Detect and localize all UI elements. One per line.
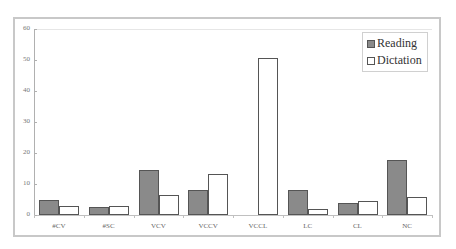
- bar-dictation: [358, 201, 378, 215]
- x-tick-label: LC: [283, 222, 333, 230]
- x-tick: [382, 215, 383, 218]
- bar-reading: [39, 200, 59, 216]
- y-tick-label: 40: [14, 86, 30, 94]
- y-tick-label: 60: [14, 24, 30, 32]
- x-tick-label: #SC: [84, 222, 134, 230]
- bar-reading: [139, 170, 159, 215]
- bar-reading: [288, 190, 308, 215]
- y-tick: [34, 60, 37, 61]
- y-tick-label: 10: [14, 179, 30, 187]
- dictation-swatch-icon: [367, 57, 375, 65]
- y-tick-label: 30: [14, 117, 30, 125]
- bar-dictation: [59, 206, 79, 215]
- reading-swatch-icon: [367, 40, 375, 48]
- x-tick-label: VCCL: [233, 222, 283, 230]
- y-tick: [34, 29, 37, 30]
- plot-top-border: [34, 29, 432, 30]
- y-tick: [34, 153, 37, 154]
- y-tick-label: 0: [14, 210, 30, 218]
- x-tick: [283, 215, 284, 218]
- x-tick: [183, 215, 184, 218]
- bar-reading: [387, 160, 407, 215]
- y-tick: [34, 122, 37, 123]
- bar-dictation: [308, 209, 328, 215]
- y-tick-label: 50: [14, 55, 30, 63]
- y-tick-label: 20: [14, 148, 30, 156]
- x-tick: [34, 215, 35, 218]
- x-tick-label: #CV: [34, 222, 84, 230]
- bar-dictation: [109, 206, 129, 215]
- x-tick: [432, 215, 433, 218]
- bar-dictation: [258, 58, 278, 215]
- bar-dictation: [159, 195, 179, 215]
- legend-label-reading: Reading: [377, 36, 417, 51]
- x-tick: [84, 215, 85, 218]
- legend-item-reading: Reading: [367, 36, 417, 51]
- y-tick: [34, 91, 37, 92]
- x-tick-label: VCCV: [183, 222, 233, 230]
- legend-item-dictation: Dictation: [367, 53, 422, 68]
- bar-dictation: [208, 174, 228, 215]
- bar-dictation: [407, 197, 427, 215]
- y-tick: [34, 184, 37, 185]
- x-tick: [333, 215, 334, 218]
- x-tick-label: NC: [382, 222, 432, 230]
- x-tick: [134, 215, 135, 218]
- bar-reading: [89, 207, 109, 215]
- legend: Reading Dictation: [362, 32, 428, 72]
- bar-reading: [188, 190, 208, 215]
- x-tick-label: VCV: [133, 222, 183, 230]
- x-tick: [233, 215, 234, 218]
- x-tick-label: CL: [332, 222, 382, 230]
- bar-reading: [338, 203, 358, 215]
- legend-label-dictation: Dictation: [377, 53, 422, 68]
